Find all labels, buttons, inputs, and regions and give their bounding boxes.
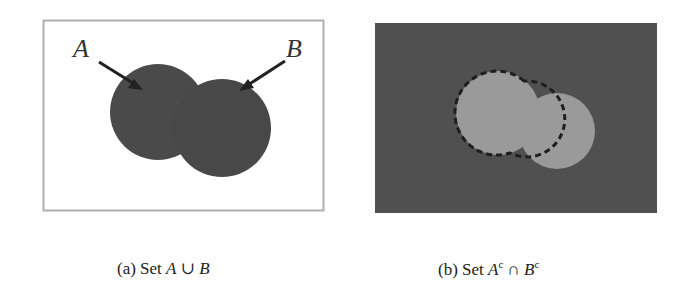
venn-figure bbox=[0, 0, 685, 306]
caption-a-prefix: (a) Set bbox=[117, 259, 166, 278]
label-a: A bbox=[73, 34, 89, 64]
caption-b-right: B bbox=[524, 260, 534, 279]
label-b: B bbox=[286, 34, 302, 64]
caption-b-op: ∩ bbox=[508, 260, 520, 279]
caption-b-prefix: (b) Set bbox=[438, 260, 488, 279]
caption-b-sup-right: c bbox=[535, 258, 540, 270]
caption-a-left: A bbox=[166, 259, 176, 278]
caption-b-sup-left: c bbox=[498, 258, 503, 270]
caption-b-left: A bbox=[488, 260, 498, 279]
caption-a-right: B bbox=[199, 259, 209, 278]
caption-b: (b) Set Ac ∩ Bc bbox=[438, 258, 539, 280]
panel-b bbox=[375, 23, 657, 213]
caption-a-op: ∪ bbox=[181, 259, 195, 278]
caption-a: (a) Set A ∪ B bbox=[117, 258, 210, 279]
set-b-circle bbox=[173, 79, 271, 177]
